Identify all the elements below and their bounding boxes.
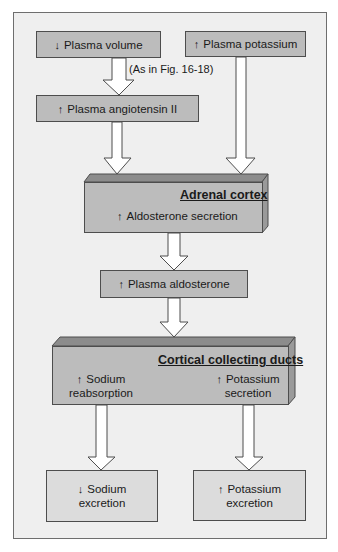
sodium-excretion-line2: excretion — [79, 496, 126, 510]
plasma-aldosterone-label: Plasma aldosterone — [128, 277, 230, 291]
aldosterone-secretion-text: ↑Aldosterone secretion — [117, 209, 238, 223]
up-arrow-icon: ↑ — [58, 102, 64, 116]
ducts-side-face — [288, 337, 295, 405]
adrenal-cortex-title: Adrenal cortex — [180, 188, 268, 202]
up-arrow-icon: ↑ — [118, 277, 124, 291]
down-arrow-icon: ↓ — [78, 483, 84, 495]
plasma-potassium-label: Plasma potassium — [203, 37, 297, 51]
potassium-excretion-line1: Potassium — [227, 483, 281, 495]
arrow-angiotensin-to-adrenal — [104, 122, 131, 174]
arrow-adrenal-to-aldosterone — [160, 233, 188, 270]
up-arrow-icon: ↑ — [218, 483, 224, 495]
sodium-excretion-box: ↓Sodium excretion — [46, 470, 158, 522]
down-arrow-icon: ↓ — [54, 38, 60, 52]
up-arrow-icon: ↑ — [117, 210, 123, 222]
potassium-excretion-box: ↑Potassium excretion — [193, 470, 306, 521]
sodium-excretion-line1: Sodium — [87, 483, 126, 495]
up-arrow-icon: ↑ — [77, 373, 83, 385]
reabsorption-label: reabsorption — [66, 386, 136, 400]
plasma-volume-label: Plasma volume — [64, 38, 143, 52]
plasma-aldosterone-box: ↑ Plasma aldosterone — [100, 270, 248, 298]
arrow-ducts-to-sodium-excretion — [88, 405, 115, 470]
arrow-aldosterone-to-ducts — [160, 298, 188, 337]
potassium-secretion-text: ↑Potassium secretion — [210, 372, 286, 400]
sodium-reabsorption-text: ↑Sodium reabsorption — [66, 372, 136, 400]
figure-reference-note: (As in Fig. 16-18) — [129, 63, 213, 75]
potassium-excretion-line2: excretion — [226, 496, 273, 510]
cortical-collecting-ducts-title: Cortical collecting ducts — [158, 353, 303, 367]
plasma-potassium-box: ↑ Plasma potassium — [185, 31, 306, 57]
plasma-volume-box: ↓ Plasma volume — [36, 31, 161, 58]
potassium-label: Potassium — [226, 373, 280, 385]
aldosterone-secretion-label: Aldosterone secretion — [127, 210, 238, 222]
plasma-angiotensin-label: Plasma angiotensin II — [67, 102, 177, 116]
sodium-label: Sodium — [86, 373, 125, 385]
secretion-label: secretion — [210, 386, 286, 400]
arrow-ducts-to-potassium-excretion — [235, 405, 263, 470]
adrenal-top-face — [84, 174, 268, 182]
ducts-top-face — [52, 337, 295, 346]
plasma-angiotensin-box: ↑ Plasma angiotensin II — [36, 95, 199, 122]
arrow-potassium-to-adrenal — [226, 57, 255, 174]
up-arrow-icon: ↑ — [216, 373, 222, 385]
up-arrow-icon: ↑ — [194, 37, 200, 51]
